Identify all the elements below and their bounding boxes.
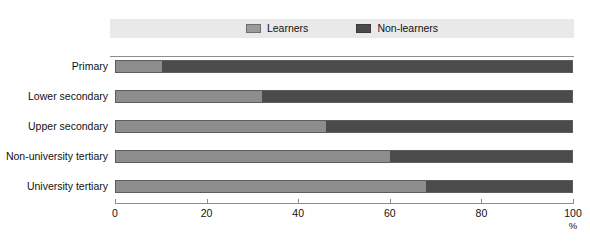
bar-segment-non-learners — [262, 91, 572, 102]
bar-segment-learners — [116, 91, 262, 102]
x-axis-tick-label: 80 — [476, 207, 488, 219]
x-axis-tick-label: 60 — [384, 207, 396, 219]
x-axis-tick — [207, 199, 208, 204]
legend-swatch-learners — [246, 24, 261, 33]
x-axis-tick — [573, 199, 574, 204]
bar-segment-learners — [116, 61, 162, 72]
plot-area: PrimaryLower secondaryUpper secondaryNon… — [115, 60, 573, 200]
chart-legend: Learners Non-learners — [110, 19, 574, 38]
category-label: Upper secondary — [28, 119, 108, 133]
legend-item-non-learners[interactable]: Non-learners — [356, 23, 438, 34]
x-axis-tick-label: 20 — [201, 207, 213, 219]
x-axis-line — [115, 203, 573, 204]
stacked-bar[interactable] — [115, 120, 573, 133]
plot-top-rule — [110, 56, 574, 57]
legend-item-learners[interactable]: Learners — [246, 23, 308, 34]
category-label: Lower secondary — [28, 89, 108, 103]
legend-swatch-non-learners — [356, 24, 371, 33]
stacked-bar[interactable] — [115, 180, 573, 193]
bar-segment-non-learners — [426, 181, 572, 192]
bar-row: Primary — [115, 60, 573, 73]
bar-segment-non-learners — [390, 151, 572, 162]
bar-row: Lower secondary — [115, 90, 573, 103]
x-axis-tick — [390, 199, 391, 204]
x-axis-tick-label: 40 — [292, 207, 304, 219]
stacked-bar-chart: Learners Non-learners PrimaryLower secon… — [0, 0, 590, 242]
bar-row: University tertiary — [115, 180, 573, 193]
bar-segment-non-learners — [326, 121, 572, 132]
x-axis-tick — [298, 199, 299, 204]
bar-row: Non-university tertiary — [115, 150, 573, 163]
legend-label-non-learners: Non-learners — [377, 23, 438, 34]
category-label: University tertiary — [27, 179, 108, 193]
bar-segment-learners — [116, 121, 326, 132]
x-axis-tick — [481, 199, 482, 204]
bar-row: Upper secondary — [115, 120, 573, 133]
stacked-bar[interactable] — [115, 90, 573, 103]
bar-segment-non-learners — [162, 61, 572, 72]
x-axis-tick — [115, 199, 116, 204]
x-axis-unit-label: % — [569, 220, 577, 231]
category-label: Non-university tertiary — [6, 149, 108, 163]
category-label: Primary — [72, 59, 108, 73]
legend-label-learners: Learners — [267, 23, 308, 34]
x-axis-tick-label: 0 — [112, 207, 118, 219]
x-axis-tick-label: 100 — [564, 207, 582, 219]
stacked-bar[interactable] — [115, 150, 573, 163]
bar-segment-learners — [116, 151, 390, 162]
bar-segment-learners — [116, 181, 426, 192]
stacked-bar[interactable] — [115, 60, 573, 73]
